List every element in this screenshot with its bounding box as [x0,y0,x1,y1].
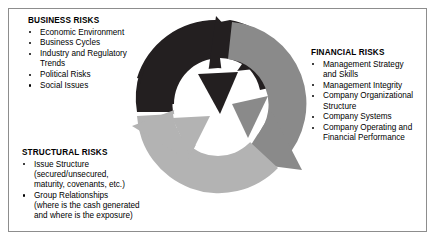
bullet-dot-icon [29,31,31,33]
bullet-dot-icon [29,74,31,76]
bullet-dot-icon [312,127,314,129]
list-item: Management Integrity [311,81,433,91]
bullet-dot-icon [312,95,314,97]
list-item: Group Relationships (where is the cash g… [22,191,182,222]
list-item: Management Strategy and Skills [311,60,433,80]
list-item: Company Systems [311,112,433,122]
list-item-text: Issue Structure (secured/unsecured, matu… [34,160,182,191]
business-risks-title: BUSINESS RISKS [28,16,158,26]
list-item: Industry and Regulatory Trends [28,49,158,69]
list-item: Business Cycles [28,38,158,48]
list-item: Company Operating and Financial Performa… [311,123,433,143]
list-item-text: Management Strategy and Skills [323,60,433,80]
risk-cycle-figure: BUSINESS RISKS Economic Environment Busi… [0,0,436,246]
list-item-text: Economic Environment [40,28,158,38]
list-item: Issue Structure (secured/unsecured, matu… [22,160,182,191]
bullet-dot-icon [29,42,31,44]
list-item-text: Business Cycles [40,38,158,48]
list-item: Economic Environment [28,28,158,38]
business-risks-block: BUSINESS RISKS Economic Environment Busi… [28,16,158,92]
financial-risks-title: FINANCIAL RISKS [311,48,433,58]
list-item-text: Company Operating and Financial Performa… [323,123,433,143]
structural-risks-list: Issue Structure (secured/unsecured, matu… [22,160,182,222]
bullet-dot-icon [23,163,25,165]
bullet-dot-icon [29,53,31,55]
bullet-dot-icon [312,116,314,118]
financial-risks-list: Management Strategy and Skills Managemen… [311,60,433,144]
list-item-text: Group Relationships (where is the cash g… [34,191,182,222]
list-item-text: Industry and Regulatory Trends [40,49,158,69]
list-item-text: Management Integrity [323,81,433,91]
list-item: Political Risks [28,70,158,80]
structural-risks-block: STRUCTURAL RISKS Issue Structure (secure… [22,148,182,222]
bullet-dot-icon [29,84,31,86]
financial-risks-block: FINANCIAL RISKS Management Strategy and … [311,48,433,144]
structural-risks-title: STRUCTURAL RISKS [22,148,182,158]
bullet-dot-icon [23,194,25,196]
list-item: Company Organizational Structure [311,91,433,111]
list-item-text: Company Systems [323,112,433,122]
bullet-dot-icon [312,84,314,86]
bullet-dot-icon [312,63,314,65]
list-item-text: Political Risks [40,70,158,80]
list-item-text: Company Organizational Structure [323,91,433,111]
list-item: Social Issues [28,81,158,91]
business-risks-list: Economic Environment Business Cycles Ind… [28,28,158,92]
list-item-text: Social Issues [40,81,158,91]
